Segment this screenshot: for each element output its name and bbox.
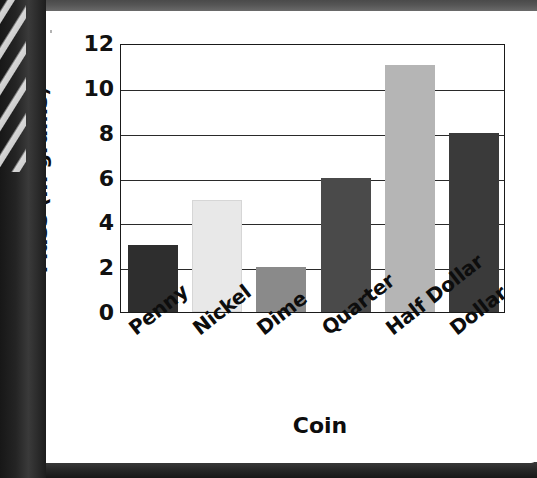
scanned-page: Mass (in grams) 024681012 PennyNickelDim… bbox=[0, 0, 537, 478]
spiral-binding-icon bbox=[0, 0, 26, 172]
x-tick-label: Penny bbox=[124, 279, 193, 340]
x-axis-tick-labels: PennyNickelDimeQuarterHalf DollarDollar bbox=[0, 0, 537, 478]
x-tick-label: Nickel bbox=[188, 280, 255, 340]
x-tick-label: Dime bbox=[252, 286, 311, 340]
x-axis-title: Coin bbox=[220, 413, 420, 438]
bar-chart-figure: Mass (in grams) 024681012 PennyNickelDim… bbox=[0, 0, 537, 478]
